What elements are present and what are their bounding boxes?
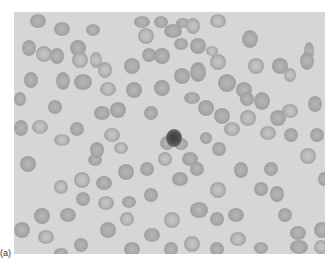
red-blood-cell [260, 126, 276, 140]
red-blood-cell [134, 16, 150, 28]
red-blood-cell [124, 58, 140, 74]
red-blood-cell [76, 192, 90, 206]
red-blood-cell [144, 228, 160, 242]
red-blood-cell [144, 188, 158, 202]
red-blood-cell [234, 162, 248, 178]
red-blood-cell [164, 24, 182, 38]
red-blood-cell [48, 100, 62, 114]
blood-smear-micrograph [14, 12, 325, 254]
red-blood-cell [144, 106, 158, 120]
red-blood-cell [290, 226, 306, 240]
nucleated-cell [166, 129, 182, 147]
red-blood-cell [248, 58, 264, 74]
red-blood-cell [74, 238, 88, 252]
red-blood-cell [270, 186, 284, 202]
red-blood-cell [254, 92, 270, 110]
red-blood-cell [120, 212, 134, 226]
red-blood-cell [54, 134, 70, 146]
red-blood-cell [74, 172, 90, 188]
red-blood-cell [60, 208, 76, 222]
red-blood-cell [240, 110, 256, 126]
red-blood-cell [100, 82, 116, 96]
red-blood-cell [174, 38, 188, 50]
red-blood-cell [210, 242, 224, 254]
red-blood-cell [228, 208, 244, 222]
red-blood-cell [54, 180, 68, 194]
red-blood-cell [98, 196, 114, 210]
red-blood-cell [122, 196, 136, 208]
red-blood-cell [74, 74, 92, 90]
red-blood-cell [184, 236, 200, 252]
red-blood-cell [154, 80, 170, 96]
red-blood-cell [90, 142, 104, 158]
red-blood-cell [184, 92, 200, 104]
red-blood-cell [314, 240, 325, 254]
red-blood-cell [190, 202, 208, 218]
red-blood-cell [254, 242, 268, 254]
red-blood-cell [264, 162, 278, 176]
red-blood-cell [96, 176, 112, 190]
red-blood-cell [124, 242, 140, 254]
red-blood-cell [172, 172, 188, 186]
red-blood-cell [104, 128, 120, 142]
red-blood-cell [110, 102, 126, 118]
red-blood-cell [118, 164, 134, 180]
red-blood-cell [30, 14, 46, 28]
panel-label: (a) [0, 248, 11, 258]
red-blood-cell [310, 128, 324, 142]
red-blood-cell [20, 156, 36, 172]
red-blood-cell [230, 232, 246, 246]
red-blood-cell [164, 242, 178, 254]
red-blood-cell [158, 152, 172, 166]
red-blood-cell [14, 222, 30, 238]
red-blood-cell [22, 40, 36, 56]
red-blood-cell [34, 208, 50, 224]
red-blood-cell [174, 68, 190, 84]
red-blood-cell [98, 62, 112, 78]
red-blood-cell [210, 54, 226, 70]
red-blood-cell [284, 68, 296, 82]
red-blood-cell [300, 52, 314, 70]
red-blood-cell [198, 100, 214, 116]
red-blood-cell [32, 120, 48, 134]
red-blood-cell [138, 28, 154, 44]
red-blood-cell [190, 62, 206, 82]
red-blood-cell [154, 48, 170, 64]
red-blood-cell [314, 222, 325, 238]
red-blood-cell [100, 222, 116, 238]
red-blood-cell [56, 72, 70, 90]
red-blood-cell [14, 92, 26, 106]
red-blood-cell [164, 212, 180, 228]
red-blood-cell [200, 132, 212, 144]
red-blood-cell [218, 74, 236, 92]
red-blood-cell [186, 18, 200, 34]
red-blood-cell [254, 182, 268, 196]
red-blood-cell [284, 128, 298, 142]
red-blood-cell [210, 182, 226, 198]
red-blood-cell [24, 72, 38, 88]
red-blood-cell [126, 82, 142, 98]
red-blood-cell [318, 172, 325, 186]
red-blood-cell [72, 52, 88, 68]
red-blood-cell [114, 142, 128, 154]
red-blood-cell [282, 104, 298, 118]
red-blood-cell [278, 208, 292, 222]
red-blood-cell [190, 38, 206, 54]
red-blood-cell [38, 230, 54, 244]
red-blood-cell [54, 248, 68, 254]
red-blood-cell [214, 108, 230, 124]
red-blood-cell [50, 48, 64, 64]
red-blood-cell [242, 30, 258, 48]
red-blood-cell [290, 240, 308, 254]
red-blood-cell [86, 24, 100, 36]
red-blood-cell [240, 92, 254, 106]
red-blood-cell [212, 142, 226, 156]
red-blood-cell [210, 14, 226, 28]
red-blood-cell [54, 22, 70, 36]
red-blood-cell [70, 122, 84, 136]
red-blood-cell [300, 148, 316, 164]
red-blood-cell [94, 106, 110, 120]
red-blood-cell [224, 122, 240, 136]
red-blood-cell [140, 162, 154, 176]
red-blood-cell [190, 162, 204, 176]
